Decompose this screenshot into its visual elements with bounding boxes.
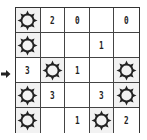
grid-cell-number[interactable]: 1 xyxy=(65,108,90,133)
sun-icon xyxy=(116,85,137,106)
grid-cell-number[interactable]: 0 xyxy=(65,8,90,33)
cell-number: 2 xyxy=(124,114,129,127)
grid-cell-sun[interactable] xyxy=(16,83,41,108)
puzzle-grid: 2001313312 xyxy=(15,7,140,133)
grid-cell-number[interactable]: 3 xyxy=(41,83,66,108)
cell-number: 3 xyxy=(50,89,55,102)
grid-cell-empty[interactable] xyxy=(41,108,66,133)
grid-cell-sun[interactable] xyxy=(16,8,41,33)
grid-cell-sun[interactable] xyxy=(16,33,41,58)
row-pointer-arrow-icon xyxy=(1,65,11,75)
grid-cell-sun[interactable] xyxy=(41,58,66,83)
grid-cell-empty[interactable] xyxy=(65,33,90,58)
grid-cell-sun[interactable] xyxy=(114,58,139,83)
grid-cell-sun[interactable] xyxy=(16,108,41,133)
cell-number: 3 xyxy=(25,64,30,77)
grid-cell-number[interactable]: 2 xyxy=(41,8,66,33)
grid-cell-empty[interactable] xyxy=(114,33,139,58)
grid-cell-number[interactable]: 3 xyxy=(16,58,41,83)
grid-cell-empty[interactable] xyxy=(65,83,90,108)
cell-number: 1 xyxy=(99,39,104,52)
grid-cell-number[interactable]: 1 xyxy=(65,58,90,83)
cell-number: 2 xyxy=(50,14,55,27)
sun-icon xyxy=(116,60,137,81)
cell-number: 1 xyxy=(75,64,80,77)
grid-cell-sun[interactable] xyxy=(90,108,115,133)
grid-cell-number[interactable]: 2 xyxy=(114,108,139,133)
cell-number: 0 xyxy=(124,14,129,27)
grid-cell-sun[interactable] xyxy=(114,83,139,108)
cell-number: 0 xyxy=(75,14,80,27)
grid-cell-empty[interactable] xyxy=(90,8,115,33)
sun-icon xyxy=(17,110,38,131)
grid-cell-number[interactable]: 3 xyxy=(90,83,115,108)
grid-cell-empty[interactable] xyxy=(90,58,115,83)
sun-icon xyxy=(17,85,38,106)
grid-cell-number[interactable]: 0 xyxy=(114,8,139,33)
sun-icon xyxy=(17,35,38,56)
cell-number: 3 xyxy=(99,89,104,102)
grid-cell-empty[interactable] xyxy=(41,33,66,58)
cell-number: 1 xyxy=(75,114,80,127)
grid-cell-number[interactable]: 1 xyxy=(90,33,115,58)
sun-icon xyxy=(42,60,63,81)
sun-icon xyxy=(91,110,112,131)
sun-icon xyxy=(17,10,38,31)
